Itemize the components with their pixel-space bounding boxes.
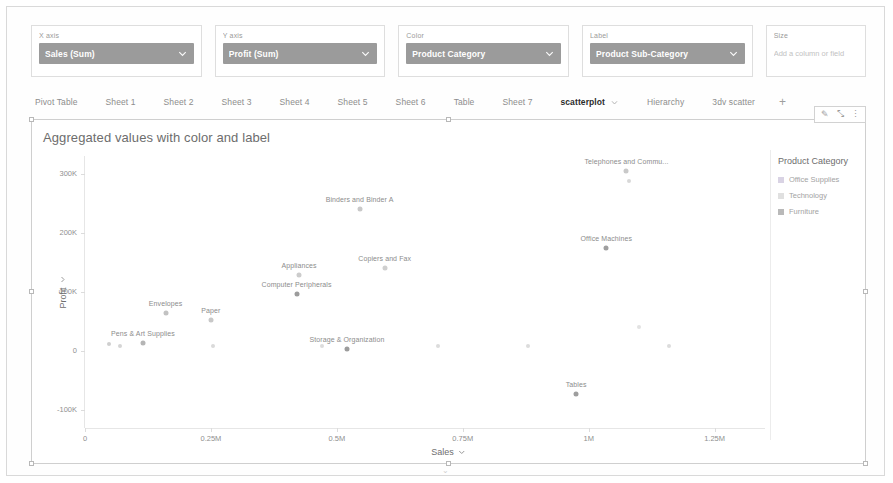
tab-sheet-4[interactable]: Sheet 4	[266, 91, 324, 113]
page-caret-icon[interactable]: ⌄	[442, 468, 450, 474]
data-point[interactable]	[526, 344, 530, 348]
tab-sheet-2[interactable]: Sheet 2	[150, 91, 208, 113]
shelf-y-axis-value: Profit (Sum)	[229, 49, 361, 59]
x-tick-label: 0.25M	[200, 434, 221, 443]
shelf-label[interactable]: LabelProduct Sub-Category	[582, 25, 753, 77]
x-tick-mark	[85, 428, 86, 432]
y-tick-label: 200K	[59, 228, 77, 237]
tab-label: Sheet 1	[106, 97, 136, 107]
legend-swatch-icon	[778, 177, 784, 183]
shelf-size-placeholder[interactable]: Add a column or field	[774, 43, 858, 64]
chevron-down-icon[interactable]	[610, 98, 619, 107]
data-point[interactable]	[140, 340, 145, 345]
data-point-label: Copiers and Fax	[358, 255, 411, 262]
shelf-x-axis[interactable]: X axisSales (Sum)	[31, 25, 202, 77]
data-point[interactable]	[297, 273, 302, 278]
legend-item-office-supplies[interactable]: Office Supplies	[778, 175, 858, 184]
shelf-color-pill[interactable]: Product Category	[406, 43, 561, 64]
data-point[interactable]	[118, 344, 122, 348]
data-point[interactable]	[637, 325, 641, 329]
edit-icon[interactable]: ✎	[819, 109, 831, 121]
y-tick-mark	[81, 174, 85, 175]
y-axis-title[interactable]: Profit	[58, 275, 68, 308]
x-axis-title-text: Sales	[431, 447, 454, 457]
chevron-down-icon[interactable]	[360, 48, 371, 59]
shelf-label-pill[interactable]: Product Sub-Category	[590, 43, 745, 64]
tab-scatterplot[interactable]: scatterplot	[546, 91, 633, 113]
data-point[interactable]	[627, 179, 631, 183]
chevron-down-icon[interactable]	[177, 48, 188, 59]
legend-item-label: Furniture	[789, 207, 819, 216]
y-tick-mark	[81, 233, 85, 234]
legend-title: Product Category	[778, 156, 858, 166]
encoding-shelf-row: X axisSales (Sum)Y axisProfit (Sum)Color…	[31, 25, 866, 77]
more-options-icon[interactable]: ⋮	[849, 109, 861, 121]
tab-sheet-5[interactable]: Sheet 5	[324, 91, 382, 113]
tab-label: Sheet 5	[338, 97, 368, 107]
shelf-y-axis-pill[interactable]: Profit (Sum)	[223, 43, 378, 64]
y-axis-title-text: Profit	[58, 287, 68, 308]
data-point[interactable]	[624, 168, 629, 173]
data-point[interactable]	[163, 310, 168, 315]
legend-item-technology[interactable]: Technology	[778, 191, 858, 200]
shelf-x-axis-label: X axis	[39, 31, 194, 40]
chevron-down-icon[interactable]	[544, 48, 555, 59]
shelf-label-label: Label	[590, 31, 745, 40]
data-point[interactable]	[344, 346, 349, 351]
data-point[interactable]	[357, 207, 362, 212]
data-point-label: Office Machines	[581, 235, 633, 242]
application-window: X axisSales (Sum)Y axisProfit (Sum)Color…	[6, 6, 885, 476]
shelf-color-value: Product Category	[412, 49, 544, 59]
x-tick-mark	[715, 428, 716, 432]
legend-item-label: Technology	[789, 191, 827, 200]
shelf-x-axis-pill[interactable]: Sales (Sum)	[39, 43, 194, 64]
data-point[interactable]	[211, 344, 215, 348]
x-axis-title[interactable]: Sales	[431, 447, 466, 457]
legend: Product Category Office SuppliesTechnolo…	[778, 156, 858, 223]
shelf-x-axis-value: Sales (Sum)	[45, 49, 177, 59]
shelf-y-axis-label: Y axis	[223, 31, 378, 40]
expand-icon[interactable]: ⤡	[834, 109, 846, 121]
tab-label: scatterplot	[560, 91, 605, 113]
tab-3dv-scatter[interactable]: 3dv scatter	[698, 91, 769, 113]
x-tick-label: 1.25M	[704, 434, 725, 443]
data-point[interactable]	[604, 245, 609, 250]
tab-label: Sheet 6	[396, 97, 426, 107]
x-tick-label: 1M	[583, 434, 593, 443]
tab-label: Sheet 2	[164, 97, 194, 107]
x-tick-mark	[337, 428, 338, 432]
y-tick-label: 0	[73, 346, 77, 355]
data-point[interactable]	[382, 266, 387, 271]
data-point[interactable]	[436, 344, 440, 348]
tab-sheet-7[interactable]: Sheet 7	[488, 91, 546, 113]
data-point-label: Envelopes	[149, 300, 183, 307]
tab-sheet-3[interactable]: Sheet 3	[208, 91, 266, 113]
data-point[interactable]	[107, 342, 111, 346]
tab-pivot-table[interactable]: Pivot Table	[31, 91, 92, 113]
tab-hierarchy[interactable]: Hierarchy	[633, 91, 698, 113]
x-tick-label: 0.75M	[452, 434, 473, 443]
data-point[interactable]	[574, 391, 579, 396]
shelf-y-axis[interactable]: Y axisProfit (Sum)	[215, 25, 386, 77]
y-tick-label: -100K	[57, 405, 77, 414]
visualization-card[interactable]: ✎ ⤡ ⋮ Aggregated values with color and l…	[31, 119, 866, 464]
add-sheet-button[interactable]: +	[769, 91, 796, 113]
data-point[interactable]	[667, 344, 671, 348]
data-point[interactable]	[208, 318, 213, 323]
data-point[interactable]	[320, 344, 324, 348]
tab-sheet-1[interactable]: Sheet 1	[92, 91, 150, 113]
legend-items: Office SuppliesTechnologyFurniture	[778, 175, 858, 216]
plot-area[interactable]: -100K0100K200K300K00.25M0.5M0.75M1M1.25M…	[85, 156, 765, 428]
tab-sheet-6[interactable]: Sheet 6	[382, 91, 440, 113]
tab-label: Sheet 4	[280, 97, 310, 107]
data-point[interactable]	[294, 291, 299, 296]
worksheet-tab-strip: Pivot TableSheet 1Sheet 2Sheet 3Sheet 4S…	[31, 91, 866, 113]
chevron-down-icon[interactable]	[728, 48, 739, 59]
data-point-label: Storage & Organization	[309, 336, 384, 343]
legend-item-furniture[interactable]: Furniture	[778, 207, 858, 216]
plot-wrapper: -100K0100K200K300K00.25M0.5M0.75M1M1.25M…	[32, 120, 865, 463]
shelf-size[interactable]: SizeAdd a column or field	[766, 25, 866, 77]
shelf-color[interactable]: ColorProduct Category	[398, 25, 569, 77]
x-tick-mark	[463, 428, 464, 432]
tab-table[interactable]: Table	[440, 91, 489, 113]
